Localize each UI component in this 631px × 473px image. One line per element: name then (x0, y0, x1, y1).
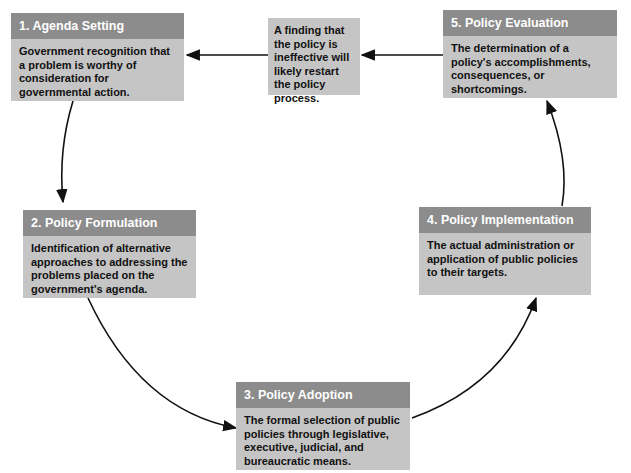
stage-policy-adoption: 3. Policy Adoption The formal selection … (236, 382, 410, 470)
stage-agenda-setting: 1. Agenda Setting Government recognition… (11, 13, 184, 101)
stage-title: 1. Agenda Setting (11, 13, 184, 39)
stage-description: Government recognition that a problem is… (11, 39, 184, 105)
arrow-adoption-to-implementation (412, 298, 536, 418)
stage-title: 5. Policy Evaluation (443, 10, 617, 36)
arrow-formulation-to-adoption (88, 298, 236, 428)
stage-policy-evaluation: 5. Policy Evaluation The determination o… (443, 10, 617, 98)
stage-title: 4. Policy Implementation (419, 207, 591, 233)
feedback-note: A finding that the policy is ineffective… (268, 18, 360, 95)
arrow-implementation-to-evaluation (547, 101, 564, 206)
stage-description: Identification of alternative approaches… (23, 236, 196, 302)
stage-title: 3. Policy Adoption (236, 382, 410, 408)
arrow-agenda-to-formulation (62, 101, 73, 202)
stage-title: 2. Policy Formulation (23, 210, 196, 236)
stage-description: The formal selection of public policies … (236, 408, 410, 473)
stage-policy-implementation: 4. Policy Implementation The actual admi… (419, 207, 591, 295)
stage-description: The actual administration or application… (419, 233, 591, 286)
stage-description: The determination of a policy's accompli… (443, 36, 617, 102)
stage-policy-formulation: 2. Policy Formulation Identification of … (23, 210, 196, 298)
